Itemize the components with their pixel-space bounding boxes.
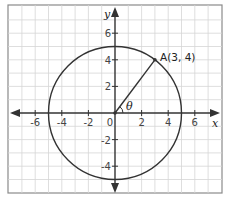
x-tick-label: 6 bbox=[192, 117, 198, 128]
y-tick-label: -4 bbox=[101, 161, 111, 172]
x-tick-label: 4 bbox=[165, 117, 171, 128]
x-tick-label: 2 bbox=[138, 117, 144, 128]
point-a bbox=[153, 58, 157, 62]
y-tick-label: 4 bbox=[105, 55, 111, 66]
y-axis-label: y bbox=[103, 8, 111, 21]
y-tick-label: 2 bbox=[105, 81, 111, 92]
origin-point bbox=[113, 111, 117, 115]
x-tick-label: -2 bbox=[83, 117, 93, 128]
y-tick-label: 6 bbox=[105, 28, 111, 39]
x-tick-label: -4 bbox=[57, 117, 67, 128]
x-tick-label: -6 bbox=[30, 117, 40, 128]
x-axis-label: x bbox=[212, 117, 219, 130]
angle-label: θ bbox=[126, 100, 133, 113]
y-tick-label: -2 bbox=[101, 135, 111, 146]
coordinate-plane: -6 -4 -2 0 2 4 6 6 4 2 -2 -4 x y θ A(3, … bbox=[0, 0, 229, 197]
point-a-label: A(3, 4) bbox=[160, 51, 195, 63]
origin-label: 0 bbox=[107, 117, 113, 128]
